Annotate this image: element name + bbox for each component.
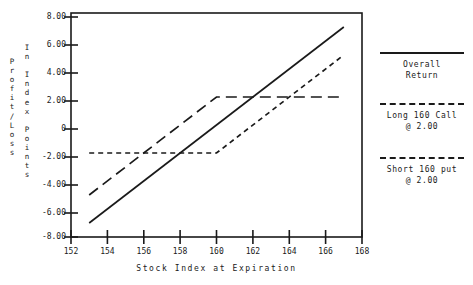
legend-entry-long-160-call[interactable]: Long 160 Call @ 2.00 bbox=[371, 103, 473, 132]
payoff-chart-figure: Profit/Loss In Index Points 8.00 6.00 4.… bbox=[0, 0, 473, 285]
x-tick-label: 168 bbox=[355, 248, 369, 256]
legend-entry-overall-return[interactable]: Overall Return bbox=[371, 52, 473, 81]
x-tick-label: 154 bbox=[100, 248, 114, 256]
x-tick-label: 166 bbox=[318, 248, 332, 256]
legend-entry-short-160-put[interactable]: Short 160 put @ 2.00 bbox=[371, 157, 473, 186]
x-tick-label: 152 bbox=[64, 248, 78, 256]
x-tick-label: 158 bbox=[173, 248, 187, 256]
legend-swatch-short-dash-line-icon bbox=[380, 103, 464, 105]
x-tick-label: 162 bbox=[246, 248, 260, 256]
legend-swatch-solid-line-icon bbox=[380, 52, 464, 54]
legend-label: Return bbox=[371, 71, 473, 82]
x-tick-label: 160 bbox=[209, 248, 223, 256]
legend-label: Long 160 Call bbox=[371, 111, 473, 122]
legend-label: @ 2.00 bbox=[371, 122, 473, 133]
x-tick-label: 156 bbox=[137, 248, 151, 256]
legend: Overall Return Long 160 Call @ 2.00 Shor… bbox=[371, 0, 473, 285]
legend-swatch-long-dash-line-icon bbox=[380, 157, 464, 159]
legend-label: Short 160 put bbox=[371, 165, 473, 176]
x-tick-label: 164 bbox=[282, 248, 296, 256]
x-axis-title: Stock Index at Expiration bbox=[71, 264, 362, 273]
legend-label: @ 2.00 bbox=[371, 176, 473, 187]
legend-label: Overall bbox=[371, 60, 473, 71]
